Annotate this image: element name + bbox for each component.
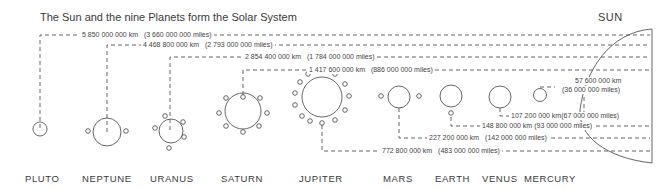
mercury-distance-km: 57 600 000 km — [573, 77, 623, 85]
planet-name-mars: MARS — [383, 173, 413, 184]
mercury-distance-miles: (36 000 000 miles) — [560, 86, 622, 94]
uranus-icon — [159, 119, 183, 143]
mars-distance: 227 200 000 km (142 000 000 miles) — [427, 134, 549, 142]
saturn-distance: 1 417 600 000 km (886 000 000 miles) — [307, 66, 435, 74]
mars-icon — [388, 86, 410, 108]
planet-name-saturn: SATURN — [221, 173, 263, 184]
planet-name-earth: EARTH — [435, 173, 470, 184]
venus-icon — [489, 86, 511, 108]
planet-name-neptune: NEPTUNE — [82, 173, 132, 184]
saturn-icon — [225, 93, 261, 129]
pluto-distance: 5 850 000 000 km (3 660 000 000 miles) — [80, 31, 214, 39]
earth-distance: 148 800 000 km (93 000 000 miles) — [480, 122, 594, 130]
uranus-distance: 2 854 400 000 km (1 784 000 000 miles) — [243, 53, 377, 61]
solar-system-diagram — [0, 0, 665, 189]
sun-arc — [580, 29, 652, 163]
neptune-distance: 4 468 800 000 km (2 793 000 000 miles) — [141, 41, 275, 49]
planet-name-mercury: MERCURY — [524, 173, 576, 184]
mercury-icon — [534, 89, 547, 102]
venus-distance: 107 200 000 km(67 000 000 miles) — [509, 112, 621, 120]
earth-icon — [440, 85, 462, 107]
planet-name-venus: VENUS — [482, 173, 518, 184]
jupiter-icon — [302, 77, 342, 117]
jupiter-distance: 772 800 000 km (483 000 000 miles) — [380, 147, 502, 155]
planet-name-pluto: PLUTO — [25, 173, 60, 184]
planet-name-uranus: URANUS — [150, 173, 194, 184]
planet-name-jupiter: JUPITER — [299, 173, 343, 184]
